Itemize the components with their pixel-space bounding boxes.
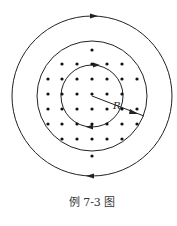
field-dot [60, 77, 63, 80]
field-dot [90, 137, 93, 140]
field-dot [105, 137, 108, 140]
field-dot [75, 122, 78, 125]
outer-bottom-arrow-icon [86, 174, 94, 179]
field-dot [90, 122, 93, 125]
radius-label: R [112, 100, 121, 111]
inner-top-arrow-icon [93, 63, 100, 68]
field-dot [75, 137, 78, 140]
field-dot [75, 77, 78, 80]
field-dot [60, 107, 63, 110]
field-dot [120, 62, 123, 65]
field-dot [90, 77, 93, 80]
field-dot [105, 107, 108, 110]
field-dot [105, 62, 108, 65]
field-dot [120, 92, 123, 95]
field-dot [46, 107, 49, 110]
field-dot [46, 92, 49, 95]
field-dot [90, 48, 93, 51]
field-dot [105, 92, 108, 95]
field-dot [135, 107, 138, 110]
field-dot [105, 77, 108, 80]
field-dot [60, 92, 63, 95]
field-dot [60, 137, 63, 140]
field-dot [135, 122, 138, 125]
field-dot [46, 77, 49, 80]
field-dot [90, 92, 93, 95]
field-dot [75, 62, 78, 65]
figure-caption: 例 7-3 图 [0, 193, 177, 209]
field-dot [90, 62, 93, 65]
outer-top-arrow-icon [90, 14, 98, 19]
field-dot [120, 137, 123, 140]
field-dot [75, 92, 78, 95]
field-dot [120, 122, 123, 125]
field-dot [46, 122, 49, 125]
field-dot [90, 154, 93, 157]
field-dot [60, 122, 63, 125]
field-dot [120, 77, 123, 80]
field-dot [60, 62, 63, 65]
field-dot [90, 107, 93, 110]
field-dot [105, 122, 108, 125]
field-dot [120, 107, 123, 110]
field-dot [75, 107, 78, 110]
field-dot [135, 77, 138, 80]
